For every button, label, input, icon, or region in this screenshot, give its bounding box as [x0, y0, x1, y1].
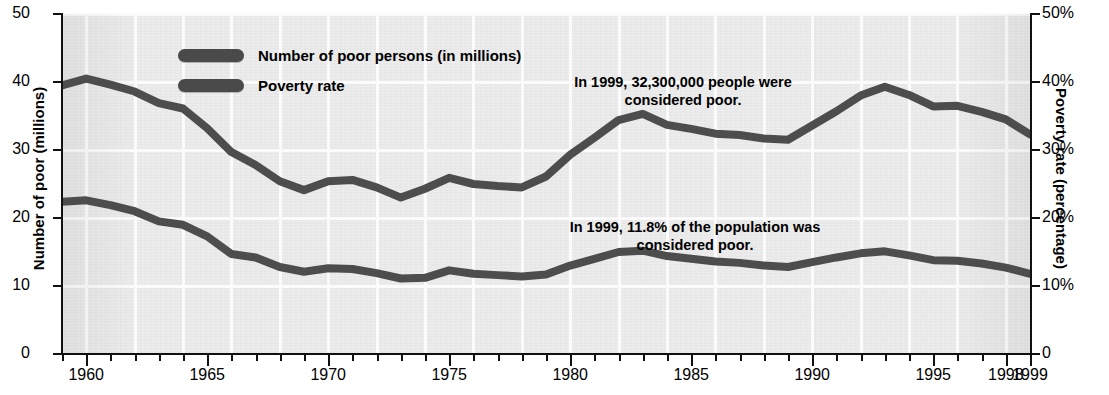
x-axis-minor-tick	[667, 355, 669, 361]
x-axis-major-tick	[1030, 355, 1032, 366]
x-axis-minor-tick	[183, 355, 185, 361]
x-axis-minor-tick	[764, 355, 766, 361]
x-axis-minor-tick	[498, 355, 500, 361]
x-axis-minor-tick	[304, 355, 306, 361]
y-axis-left-tick-label: 40	[0, 72, 30, 90]
legend-label: Number of poor persons (in millions)	[258, 47, 521, 64]
x-axis-tick-label: 1965	[189, 366, 225, 384]
y-axis-left-tick-label: 10	[0, 276, 30, 294]
x-axis-minor-tick	[135, 355, 137, 361]
x-axis-minor-tick	[473, 355, 475, 361]
y-axis-left-line	[61, 13, 63, 355]
y-axis-right-tick	[1032, 285, 1040, 287]
legend-item-number-of-poor: Number of poor persons (in millions)	[178, 40, 521, 70]
x-axis-major-tick	[328, 355, 330, 366]
x-axis-minor-tick	[231, 355, 233, 361]
x-axis-major-tick	[570, 355, 572, 366]
annotation-number-of-poor: In 1999, 32,300,000 people were consider…	[543, 73, 823, 109]
x-axis-tick-label: 1995	[915, 366, 951, 384]
x-axis-major-tick	[691, 355, 693, 366]
y-axis-right-tick	[1032, 149, 1040, 151]
y-axis-right-tick-label: 50%	[1042, 4, 1074, 22]
x-axis-minor-tick	[256, 355, 258, 361]
x-axis-minor-tick	[594, 355, 596, 361]
x-axis-minor-tick	[522, 355, 524, 361]
y-axis-left-tick-label: 0	[0, 344, 30, 362]
x-axis-minor-tick	[619, 355, 621, 361]
annotation-poverty-rate: In 1999, 11.8% of the population was con…	[530, 218, 860, 254]
y-axis-left-tick	[53, 149, 61, 151]
y-axis-left-tick-label: 30	[0, 140, 30, 158]
y-axis-left-title: Number of poor (millions)	[30, 49, 47, 309]
y-axis-left-tick-label: 20	[0, 208, 30, 226]
y-axis-right-title: Poverty rate (percentage)	[1053, 49, 1070, 309]
y-axis-right-tick	[1032, 81, 1040, 83]
x-axis-tick-label: 1990	[794, 366, 830, 384]
y-axis-right-tick	[1032, 353, 1040, 355]
legend-item-poverty-rate: Poverty rate	[178, 70, 521, 100]
x-axis-minor-tick	[425, 355, 427, 361]
x-axis-minor-tick	[280, 355, 282, 361]
legend-label: Poverty rate	[258, 77, 345, 94]
x-axis-minor-tick	[788, 355, 790, 361]
y-axis-right-tick-label: 0	[1042, 344, 1051, 362]
chart-figure: 50403020100 50%40%30%20%10%0 19601965197…	[0, 0, 1109, 395]
legend-swatch-icon	[178, 49, 244, 62]
x-axis-tick-label: 1999	[1012, 366, 1048, 384]
x-axis-tick-label: 1985	[673, 366, 709, 384]
y-axis-left-tick-label: 50	[0, 4, 30, 22]
x-axis-major-tick	[86, 355, 88, 366]
y-axis-right-line	[1030, 13, 1032, 355]
x-axis-minor-tick	[352, 355, 354, 361]
x-axis-minor-tick	[982, 355, 984, 361]
x-axis-major-tick	[449, 355, 451, 366]
x-axis-minor-tick	[715, 355, 717, 361]
x-axis-minor-tick	[885, 355, 887, 361]
y-axis-right-tick	[1032, 217, 1040, 219]
x-axis-major-tick	[207, 355, 209, 366]
y-axis-left-tick	[53, 285, 61, 287]
x-axis-major-tick	[1006, 355, 1008, 366]
x-axis-tick-label: 1980	[552, 366, 588, 384]
x-axis-tick-label: 1975	[431, 366, 467, 384]
x-axis-minor-tick	[401, 355, 403, 361]
chart-legend: Number of poor persons (in millions) Pov…	[178, 40, 521, 100]
x-axis-major-tick	[812, 355, 814, 366]
y-axis-left-tick	[53, 13, 61, 15]
x-axis-tick-label: 1970	[310, 366, 346, 384]
x-axis-minor-tick	[909, 355, 911, 361]
x-axis-minor-tick	[377, 355, 379, 361]
x-axis-minor-tick	[159, 355, 161, 361]
x-axis-major-tick	[933, 355, 935, 366]
y-axis-left-tick	[53, 81, 61, 83]
x-axis-minor-tick	[836, 355, 838, 361]
x-axis-minor-tick	[740, 355, 742, 361]
x-axis-minor-tick	[62, 355, 64, 361]
x-axis-minor-tick	[110, 355, 112, 361]
x-axis-minor-tick	[957, 355, 959, 361]
y-axis-left-tick	[53, 217, 61, 219]
x-axis-minor-tick	[861, 355, 863, 361]
y-axis-right-tick	[1032, 13, 1040, 15]
x-axis-minor-tick	[643, 355, 645, 361]
y-axis-left-tick	[53, 353, 61, 355]
x-axis-minor-tick	[546, 355, 548, 361]
x-axis-tick-label: 1960	[68, 366, 104, 384]
legend-swatch-icon	[178, 79, 244, 92]
